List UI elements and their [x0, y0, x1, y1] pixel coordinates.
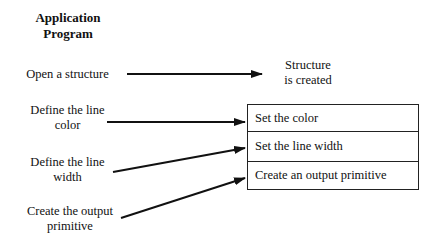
structure-element-label: Set the color — [255, 111, 318, 126]
structure-element-set-color: Set the color — [247, 104, 419, 132]
structure-element-set-line-width: Set the line width — [247, 131, 419, 162]
structure-element-output-primitive: Create an output primitive — [247, 161, 419, 190]
arrow-primitive-to-output — [121, 178, 245, 218]
structure-element-label: Create an output primitive — [255, 168, 387, 183]
arrow-width-to-set-width — [113, 148, 245, 172]
structure-element-label: Set the line width — [255, 139, 343, 154]
